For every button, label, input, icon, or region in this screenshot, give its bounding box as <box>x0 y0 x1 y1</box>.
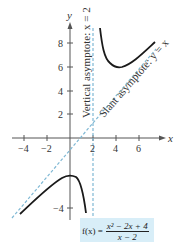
x-tick-label: −4 <box>18 143 29 154</box>
y-tick-label: −4 <box>53 203 64 214</box>
x-axis-label: x <box>167 132 173 144</box>
x-tick-label: 2 <box>90 143 95 154</box>
chart-canvas: −4 −2 2 4 6 8 6 4 2 −4 x y Vertical asym… <box>0 0 184 245</box>
slant-asymptote-label: Slant asymptote: y = x <box>96 36 170 119</box>
formula-numerator: x² − 2x + 4 <box>106 221 149 232</box>
formula-lhs: f(x) = <box>82 226 103 236</box>
x-tick-label: 4 <box>113 143 118 154</box>
y-tick-label: 2 <box>58 109 63 120</box>
x-tick-label: −2 <box>41 143 52 154</box>
y-tick-label: 4 <box>58 86 63 97</box>
x-tick-label: 6 <box>136 143 141 154</box>
y-tick-label: 8 <box>58 38 63 49</box>
y-axis-arrow-icon <box>68 22 73 29</box>
x-axis-arrow-icon <box>159 136 166 141</box>
formula-denominator: x − 2 <box>118 232 137 242</box>
x-axis <box>12 136 166 141</box>
y-tick-label: 6 <box>58 62 63 73</box>
vertical-asymptote-label: Vertical asymptote: x = 2 <box>80 7 92 118</box>
formula-fraction: x² − 2x + 4 x − 2 <box>106 221 149 242</box>
function-formula: f(x) = x² − 2x + 4 x − 2 <box>82 218 154 244</box>
y-axis-label: y <box>66 9 72 21</box>
y-axis <box>68 22 73 220</box>
